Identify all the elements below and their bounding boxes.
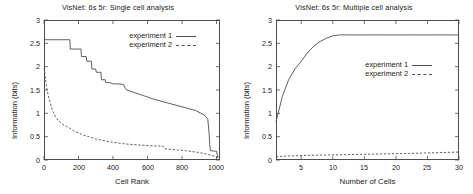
y-tick-right-5: 0.5 <box>246 132 272 141</box>
x-tick-left-4: 800 <box>171 163 193 172</box>
series-line-right-experiment-1 <box>276 35 459 122</box>
x-tick-right-0: 5 <box>291 163 311 172</box>
y-tick-left-2: 2 <box>14 62 40 71</box>
x-tick-right-3: 20 <box>385 163 407 172</box>
x-tick-left-1: 200 <box>68 163 90 172</box>
legend-label-experiment-1: experiment 1 <box>112 31 172 40</box>
legend-key-dashed-icon <box>412 70 432 78</box>
x-axis-label-left: Cell Rank <box>44 177 220 186</box>
y-tick-right-2: 2 <box>246 62 272 71</box>
legend-item-experiment-1[interactable]: experiment 1 <box>348 60 432 69</box>
x-tick-right-1: 10 <box>322 163 344 172</box>
legend-label-experiment-2: experiment 2 <box>348 69 408 78</box>
x-tick-right-5: 30 <box>448 163 470 172</box>
series-line-right-experiment-2 <box>276 152 459 157</box>
legend-left: experiment 1 experiment 2 <box>112 31 196 49</box>
legend-key-solid-icon <box>412 61 432 69</box>
chart-title-left: VisNet: 6s 5r: Single cell analysis <box>0 3 236 12</box>
x-tick-right-4: 25 <box>416 163 438 172</box>
series-line-left-experiment-2 <box>44 68 218 157</box>
x-axis-label-right: Number of Cells <box>276 177 459 186</box>
legend-label-experiment-2: experiment 2 <box>112 40 172 49</box>
y-tick-left-3: 1.5 <box>14 86 40 95</box>
y-tick-right-4: 1 <box>246 109 272 118</box>
x-tick-left-3: 600 <box>137 163 159 172</box>
y-tick-left-0: 3 <box>14 16 40 25</box>
plot-curves-right <box>276 20 459 160</box>
legend-right: experiment 1 experiment 2 <box>348 60 432 78</box>
y-tick-left-4: 1 <box>14 109 40 118</box>
x-tick-left-0: 0 <box>34 163 54 172</box>
y-tick-right-0: 3 <box>246 16 272 25</box>
x-tick-left-2: 400 <box>102 163 124 172</box>
x-tick-left-5: 1000 <box>204 163 228 172</box>
y-tick-left-1: 2.5 <box>14 39 40 48</box>
legend-item-experiment-1[interactable]: experiment 1 <box>112 31 196 40</box>
y-tick-right-3: 1.5 <box>246 86 272 95</box>
legend-item-experiment-2[interactable]: experiment 2 <box>348 69 432 78</box>
chart-panel-single-cell: VisNet: 6s 5r: Single cell analysis Info… <box>0 0 236 194</box>
chart-panel-multiple-cell: VisNet: 6s 5r: Multiple cell analysis In… <box>236 0 472 194</box>
plot-area-right <box>276 20 459 160</box>
legend-key-dashed-icon <box>176 41 196 49</box>
y-tick-left-5: 0.5 <box>14 132 40 141</box>
legend-key-solid-icon <box>176 32 196 40</box>
legend-item-experiment-2[interactable]: experiment 2 <box>112 40 196 49</box>
tick-marks-right <box>276 20 459 160</box>
chart-title-right: VisNet: 6s 5r: Multiple cell analysis <box>236 3 472 12</box>
series-line-left-experiment-1 <box>44 40 218 158</box>
y-tick-right-6: 0 <box>246 156 272 165</box>
x-tick-right-2: 15 <box>353 163 375 172</box>
y-tick-right-1: 2.5 <box>246 39 272 48</box>
legend-label-experiment-1: experiment 1 <box>348 60 408 69</box>
